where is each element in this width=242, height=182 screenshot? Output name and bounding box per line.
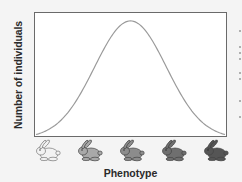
phenotype-icons [34,139,230,165]
bell-curve-figure: Number of individuals Phenotype [0,0,242,182]
rabbit-darkest-icon [202,139,230,163]
rabbit-white-icon [34,139,62,163]
y-axis-label: Number of individuals [8,13,28,137]
y-axis-label-text: Number of individuals [12,21,24,129]
rabbit-dark-gray-icon [160,139,188,163]
x-axis-label: Phenotype [34,167,227,179]
plot-area [34,12,227,137]
distribution-curve [35,13,226,136]
edge-artifacts [239,28,242,123]
rabbit-light-gray-icon [76,139,104,163]
rabbit-gray-icon [118,139,146,163]
